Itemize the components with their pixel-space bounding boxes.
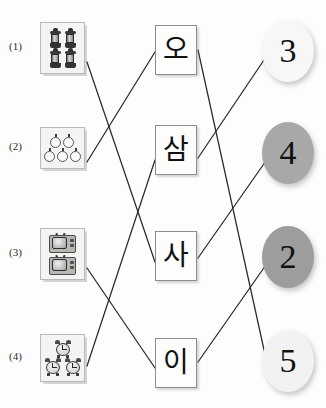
television-icon: [49, 255, 76, 276]
balloon-icon: [63, 134, 75, 148]
picture-card[interactable]: [40, 22, 85, 74]
picture-card[interactable]: [40, 228, 85, 280]
number-text: 3: [280, 34, 297, 68]
alarm-clock-icon: [54, 340, 72, 358]
item-number-label: (2): [9, 140, 22, 152]
balloon-icon: [70, 148, 82, 162]
number-text: 4: [280, 136, 297, 170]
picture-row: [43, 148, 82, 162]
number-oval[interactable]: 5: [262, 330, 314, 392]
connector-line: [198, 158, 268, 258]
picture-to-syllable-lines: [87, 52, 155, 368]
connector-line: [198, 50, 268, 368]
item-number-label: (1): [9, 40, 22, 52]
number-text: 5: [280, 344, 297, 378]
balloon-icon: [44, 148, 56, 162]
picture-card[interactable]: [40, 127, 85, 169]
picture-row: [48, 48, 78, 68]
syllable-text: 삼: [163, 136, 189, 164]
lantern-icon: [49, 28, 62, 48]
alarm-clock-icon: [44, 358, 62, 376]
lantern-icon: [64, 48, 77, 68]
picture-row: [48, 28, 78, 48]
syllable-text: 오: [163, 36, 189, 64]
item-number-label: (3): [9, 246, 22, 258]
connector-line: [198, 262, 268, 362]
picture-row: [43, 358, 83, 376]
connector-line: [87, 268, 155, 368]
number-oval[interactable]: 2: [262, 226, 314, 288]
balloon-icon: [50, 134, 62, 148]
connector-line: [198, 54, 268, 158]
lantern-icon: [64, 28, 77, 48]
picture-row: [49, 232, 76, 254]
number-oval[interactable]: 4: [262, 122, 314, 184]
picture-row: [53, 340, 73, 358]
number-text: 2: [280, 240, 297, 274]
syllable-card[interactable]: 이: [155, 338, 197, 388]
picture-row: [49, 254, 76, 276]
balloon-icon: [57, 148, 69, 162]
connector-line: [87, 62, 155, 262]
picture-row: [50, 134, 76, 148]
alarm-clock-icon: [64, 358, 82, 376]
lantern-icon: [49, 48, 62, 68]
number-oval[interactable]: 3: [262, 20, 314, 82]
picture-card[interactable]: [40, 334, 85, 382]
connector-line: [87, 160, 155, 366]
television-icon: [49, 233, 76, 254]
syllable-card[interactable]: 오: [155, 25, 197, 75]
syllable-card[interactable]: 삼: [155, 125, 197, 175]
syllable-text: 이: [163, 349, 189, 377]
item-number-label: (4): [9, 350, 22, 362]
syllable-text: 사: [163, 242, 189, 270]
connector-line: [87, 52, 155, 162]
matching-worksheet: (1)(2)(3)(4) 오삼사이 3425: [0, 0, 326, 408]
syllable-to-number-lines: [198, 50, 268, 368]
syllable-card[interactable]: 사: [155, 231, 197, 281]
